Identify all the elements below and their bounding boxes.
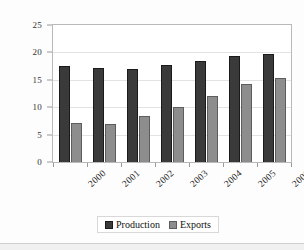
x-tick-label: 2005 [256,168,278,189]
bar-group [53,25,87,162]
bar-exports [139,116,150,162]
x-tick-mark [189,163,190,167]
x-tick-mark [291,163,292,167]
chart-legend: ProductionExports [97,216,219,233]
legend-label: Exports [180,219,211,230]
bar-exports [105,124,116,162]
legend-label: Production [116,219,160,230]
bar-exports [241,84,252,162]
y-tick-label: 0 [37,157,42,167]
legend-swatch-icon [105,221,113,229]
bar-group [155,25,189,162]
bar-production [93,68,104,162]
bar-production [161,65,172,162]
y-tick-label: 5 [37,130,42,140]
bar-group [223,25,257,162]
bar-production [229,56,240,162]
bar-production [195,61,206,162]
x-tick-mark [121,163,122,167]
bar-group [87,25,121,162]
x-axis-labels: 2000200120022003200420052006 [52,168,292,202]
legend-entry-exports[interactable]: Exports [169,219,211,230]
bar-exports [71,123,82,162]
bar-production [127,69,138,162]
bar-exports [173,107,184,162]
bottom-strip [0,243,304,250]
y-axis-ticks: 2520151050 [0,24,52,163]
bar-production [263,54,274,162]
x-tick-label: 2000 [86,168,108,189]
x-tick-mark [87,163,88,167]
bar-group [121,25,155,162]
y-tick-label: 25 [33,20,42,30]
x-tick-label: 2002 [154,168,176,189]
bar-group [257,25,291,162]
y-tick-label: 15 [33,75,42,85]
x-tick-mark [53,163,54,167]
bar-exports [275,78,286,162]
x-tick-label: 2003 [188,168,210,189]
bar-production [59,66,70,162]
chart-figure: Million m3 2520151050 200020012002200320… [0,0,304,250]
legend-entry-production[interactable]: Production [105,219,160,230]
x-tick-label: 2001 [120,168,142,189]
bar-exports [207,96,218,162]
bars-layer [53,25,291,162]
x-tick-label: 2006 [290,168,304,189]
legend-swatch-icon [169,221,177,229]
x-tick-mark [155,163,156,167]
bar-group [189,25,223,162]
y-tick-label: 10 [33,102,42,112]
x-tick-mark [257,163,258,167]
x-tick-mark [223,163,224,167]
x-tick-label: 2004 [222,168,244,189]
y-tick-label: 20 [33,47,42,57]
